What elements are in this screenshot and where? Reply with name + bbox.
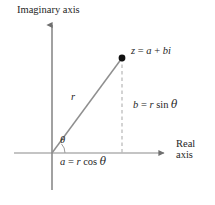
point-z-equation-label: z = a + bi [131, 45, 171, 56]
real-axis-label-line1: Real [176, 138, 195, 149]
cos-function: cos [83, 156, 97, 167]
radius-label: r [71, 91, 75, 102]
real-component-equation-label: a = r cos θ [60, 156, 106, 167]
sin-function: sin [156, 99, 168, 110]
real-axis-label-line2: axis [176, 149, 195, 160]
complex-plane-diagram: Imaginary axis Real axis z = a + bi b = … [0, 0, 215, 205]
a-symbol: a [60, 156, 65, 167]
imaginary-axis-label: Imaginary axis [17, 4, 80, 15]
equals-sign-z: = [138, 45, 144, 56]
equals-sign-a: = [68, 156, 74, 167]
theta-symbol-b: θ [171, 98, 177, 110]
a-symbol-z: a [146, 45, 151, 56]
equals-sign-b: = [141, 99, 147, 110]
r-symbol-a: r [76, 156, 80, 167]
point-z-dot [119, 55, 126, 62]
r-symbol-b: r [149, 99, 153, 110]
angle-arc [61, 144, 65, 153]
plus-sign-z: + [154, 45, 160, 56]
real-axis-label: Real axis [176, 138, 195, 160]
bi-symbol-z: bi [163, 45, 171, 56]
angle-theta-label: θ [60, 134, 65, 145]
diagram-canvas [0, 0, 215, 205]
b-symbol: b [133, 99, 138, 110]
theta-symbol-a: θ [100, 155, 106, 167]
imaginary-component-equation-label: b = r sin θ [133, 99, 177, 110]
z-symbol: z [131, 45, 135, 56]
